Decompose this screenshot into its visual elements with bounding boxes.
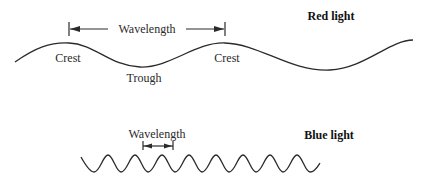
red-trough-label: Trough <box>127 71 162 85</box>
red-wavelength-label: Wavelength <box>118 22 175 36</box>
arrow-right-icon <box>214 26 224 32</box>
arrow-left-icon <box>144 144 152 149</box>
red-light-title: Red light <box>307 9 354 23</box>
blue-wavelength-label: Wavelength <box>128 127 185 141</box>
wave-diagram: Wavelength Crest Crest Trough Red light … <box>0 0 429 184</box>
arrow-right-icon <box>164 144 172 149</box>
arrow-left-icon <box>70 26 80 32</box>
blue-light-wave <box>81 155 320 172</box>
red-crest-label-2: Crest <box>214 51 240 65</box>
red-crest-label-1: Crest <box>55 51 81 65</box>
blue-light-title: Blue light <box>304 128 354 142</box>
